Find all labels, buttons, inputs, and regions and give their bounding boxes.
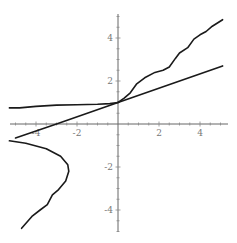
x-axis [10,122,228,127]
y-tick-label: -4 [104,205,113,215]
y-tick-label: 2 [107,76,113,86]
left-flat-curve [9,103,118,108]
chart-plot: -4-224 42-2-4 [0,0,237,243]
y-tick-label: 4 [107,33,113,43]
y-tick-label: -2 [104,162,113,172]
x-tick-labels: -4-224 [32,128,204,138]
y-axis [116,14,121,232]
x-tick-label: 2 [156,128,162,138]
x-tick-label: 4 [197,128,203,138]
wavy-rising-curve [118,20,223,103]
lower-bulge-curve [9,141,68,229]
x-tick-label: -2 [73,128,82,138]
